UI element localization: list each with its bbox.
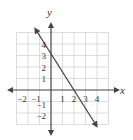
y-tick-label: −2 [36, 111, 46, 121]
y-tick-label: 3 [42, 51, 47, 61]
x-tick-label: 4 [95, 94, 100, 104]
x-tick-label: 2 [72, 94, 77, 104]
y-tick-label: 4 [42, 40, 47, 50]
x-tick-label: 1 [60, 94, 65, 104]
x-tick-label: −2 [17, 94, 27, 104]
y-axis-label: y [46, 6, 52, 18]
y-tick-label: −1 [36, 100, 46, 110]
x-tick-label: 3 [83, 94, 88, 104]
y-tick-label: 1 [42, 74, 47, 84]
y-tick-label: 2 [42, 63, 47, 73]
x-axis-label: x [119, 84, 125, 96]
grid [17, 33, 109, 125]
coordinate-plane: x y −2 −1 1 2 3 4 1 2 3 4 −1 −2 [0, 0, 133, 140]
